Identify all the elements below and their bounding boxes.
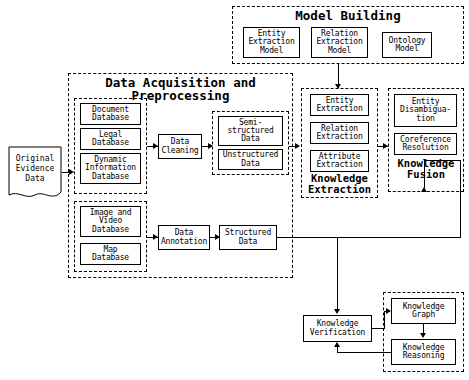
group-knowledge-fusion-title: Knowledge Fusion bbox=[388, 158, 464, 180]
node-attribute-extraction: Attribute Extraction bbox=[310, 150, 369, 172]
node-structured-data: Structured Data bbox=[219, 225, 277, 250]
node-document-database: Document Database bbox=[80, 103, 141, 125]
node-knowledge-reasoning: Knowledge Reasoning bbox=[391, 339, 456, 365]
node-unstructured-data: Unstructured Data bbox=[218, 149, 283, 170]
arrowhead-bus-to-verification bbox=[334, 309, 340, 314]
node-knowledge-verification: Knowledge Verification bbox=[303, 315, 372, 342]
connector-bus-to-verification bbox=[337, 237, 338, 309]
connector-fusion-feed-horizontal bbox=[424, 160, 461, 161]
node-knowledge-graph: Knowledge Graph bbox=[391, 298, 456, 324]
node-entity-extraction: Entity Extraction bbox=[310, 94, 369, 116]
arrowhead-reasoning-to-verification bbox=[334, 342, 340, 347]
node-image-and-video-database: Image and Video Database bbox=[80, 206, 141, 237]
group-knowledge-extraction-title: Knowledge Extraction bbox=[301, 173, 378, 195]
node-data-annotation: Data Annotation bbox=[158, 225, 210, 250]
connector-reasoning-feedback-h bbox=[337, 352, 391, 353]
node-relation-extraction: Relation Extraction bbox=[310, 122, 369, 144]
connector-verification-to-graph-h1 bbox=[372, 328, 384, 329]
node-dynamic-information-database: Dynamic Information Database bbox=[80, 153, 141, 184]
node-map-database: Map Database bbox=[80, 243, 141, 265]
arrowhead-cleaned-to-extraction bbox=[295, 143, 300, 149]
connector-structured-bus-vertical bbox=[460, 160, 461, 238]
arrowhead-graph-to-reasoning bbox=[420, 333, 426, 338]
node-coreference-resolution: Coreference Resolution bbox=[394, 133, 457, 155]
arrowhead-verification-to-graph bbox=[386, 308, 391, 314]
node-entity-disambiguation: Entity Disambigua- tion bbox=[394, 94, 457, 127]
node-original-evidence-data-label: Original Evidence Data bbox=[8, 154, 62, 184]
node-semi-structured-data: Semi- structured Data bbox=[218, 116, 283, 146]
connector-verification-to-graph-v bbox=[384, 311, 385, 329]
node-relation-extraction-model: Relation Extraction Model bbox=[311, 27, 368, 58]
node-legal-database: Legal Database bbox=[80, 128, 141, 150]
arrowhead-evidence-to-sources bbox=[69, 169, 74, 175]
group-model-building-title: Model Building bbox=[232, 9, 464, 22]
connector-structured-bus-horizontal bbox=[277, 237, 461, 238]
diagram-canvas: Model Building Entity Extraction Model R… bbox=[0, 0, 469, 380]
connector-reasoning-feedback-v bbox=[337, 347, 338, 353]
connector-fusion-riser bbox=[424, 160, 425, 188]
node-data-cleaning: Data Cleaning bbox=[158, 134, 202, 159]
node-ontology-model: Ontology Model bbox=[382, 32, 432, 58]
node-entity-extraction-model: Entity Extraction Model bbox=[243, 27, 300, 58]
